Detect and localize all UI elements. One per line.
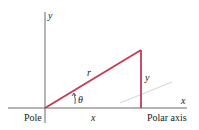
side-y-label: y bbox=[144, 72, 150, 83]
side-x-label: x bbox=[90, 112, 96, 123]
dashed-guide-line bbox=[120, 82, 172, 103]
angle-label: θ bbox=[78, 94, 83, 105]
polar-axis-label: Polar axis bbox=[147, 112, 187, 123]
polar-coordinates-diagram: y x r θ y x Pole Polar axis bbox=[0, 0, 199, 130]
radius-label: r bbox=[87, 67, 91, 78]
pole-label: Pole bbox=[24, 112, 42, 123]
angle-arc-arrow bbox=[74, 94, 75, 104]
x-axis-label: x bbox=[180, 95, 186, 106]
y-axis-label: y bbox=[47, 10, 53, 21]
radius-line-r bbox=[45, 50, 141, 108]
